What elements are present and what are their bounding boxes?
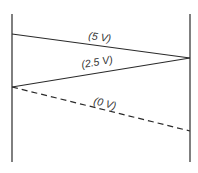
label-5v: (5 V): [88, 29, 112, 44]
bounce-diagram: (5 V) (2.5 V) (0 V): [0, 0, 198, 173]
trace-0v-line: [12, 87, 190, 131]
label-0v: (0 V): [93, 94, 118, 111]
label-2-5v: (2.5 V): [80, 53, 113, 70]
